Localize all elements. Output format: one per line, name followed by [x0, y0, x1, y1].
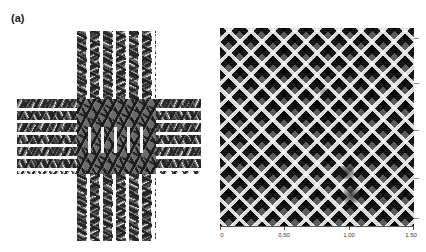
crossing-bright-channel [101, 127, 104, 153]
axis-tick-label: 1.50 [405, 232, 417, 238]
afm-edge-tick [414, 83, 419, 84]
axis-tick-mark [284, 226, 285, 230]
afm-edge-tick [414, 38, 419, 39]
axis-tick-label: 0 [220, 232, 223, 238]
crossing-bright-channel [88, 127, 91, 153]
panel-b-afm-image: (b) 0 0.50 1.00 1.50 [212, 0, 426, 252]
afm-edge-tick [414, 130, 419, 131]
afm-edge-tick [414, 178, 419, 179]
crossing-bright-channel [127, 127, 130, 153]
afm-edge-tick [414, 218, 419, 219]
axis-tick-mark [220, 226, 221, 230]
axis-tick-mark [413, 226, 414, 230]
chain-crossing-region [77, 99, 156, 174]
afm-lattice-pattern [220, 28, 414, 226]
panel-a-molecular-model: (a) [0, 0, 212, 252]
axis-tick-label: 1.00 [343, 232, 355, 238]
afm-scan-image [220, 28, 414, 226]
figure-container: (a) [0, 0, 426, 252]
afm-x-axis: 0 0.50 1.00 1.50 [220, 226, 414, 227]
axis-tick-label: 0.50 [278, 232, 290, 238]
axis-tick-mark [349, 226, 350, 230]
panel-a-label: (a) [11, 13, 24, 24]
crossing-bright-channel [114, 127, 117, 153]
crossing-bright-channel [140, 127, 143, 153]
